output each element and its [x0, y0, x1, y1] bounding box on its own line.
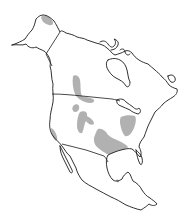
- coastline-florida: [136, 150, 142, 165]
- range-colorado-plateau: [77, 111, 94, 133]
- coastline-north-america: [12, 15, 177, 210]
- coastline-arctic-islands: [100, 39, 130, 55]
- coastline-newfoundland: [168, 75, 175, 82]
- coastline-great-lakes: [117, 99, 141, 114]
- range-northern-plains: [73, 75, 95, 103]
- border-alaska-canada: [46, 32, 60, 66]
- coastline-hudson-bay: [106, 59, 130, 87]
- coastline-baja-california: [60, 146, 72, 173]
- range-ohio-valley: [120, 115, 136, 136]
- coastline: [12, 15, 177, 210]
- range-north-alaska: [41, 16, 53, 26]
- range-great-basin: [72, 104, 79, 112]
- north-america-map: [0, 0, 191, 219]
